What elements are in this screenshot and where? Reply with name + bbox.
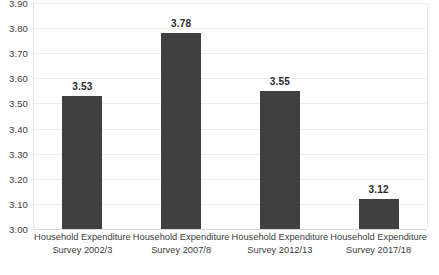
bar (359, 199, 399, 229)
y-axis-tick-label: 3.80 (9, 23, 28, 34)
y-axis-tick-label: 3.50 (9, 98, 28, 109)
x-axis-category-line: Household Expenditure (231, 231, 330, 244)
y-axis-tick-label: 3.60 (9, 73, 28, 84)
x-axis-category-line: Survey 2002/3 (33, 244, 132, 257)
bar-group: 3.55 (231, 3, 330, 229)
x-axis-category-line: Survey 2017/18 (329, 244, 428, 257)
y-axis-tick-label: 3.20 (9, 173, 28, 184)
x-axis-category-line: Survey 2012/13 (231, 244, 330, 257)
y-axis: 3.903.803.703.603.503.403.303.203.103.00 (0, 0, 33, 240)
bar-value-label: 3.78 (171, 18, 191, 29)
y-axis-tick-label: 3.00 (9, 224, 28, 235)
x-axis-category-line: Household Expenditure (329, 231, 428, 244)
bar (62, 96, 102, 229)
gridline (34, 229, 427, 230)
x-axis: Household ExpenditureSurvey 2002/3Househ… (33, 231, 428, 275)
x-axis-category-line: Survey 2007/8 (132, 244, 231, 257)
x-axis-category-line: Household Expenditure (132, 231, 231, 244)
bar-group: 3.12 (329, 3, 428, 229)
y-axis-tick-label: 3.40 (9, 123, 28, 134)
x-axis-category-label: Household ExpenditureSurvey 2002/3 (33, 231, 132, 256)
bar (260, 91, 300, 229)
y-axis-tick-label: 3.30 (9, 148, 28, 159)
bar-value-label: 3.53 (72, 81, 92, 92)
bar-value-label: 3.12 (368, 184, 388, 195)
bars-layer: 3.533.783.553.12 (33, 3, 428, 229)
y-axis-tick-label: 3.10 (9, 198, 28, 209)
bar-chart: 3.903.803.703.603.503.403.303.203.103.00… (0, 0, 439, 275)
x-axis-category-label: Household ExpenditureSurvey 2017/18 (329, 231, 428, 256)
bar (161, 33, 201, 229)
y-axis-tick-label: 3.70 (9, 48, 28, 59)
x-axis-category-line: Household Expenditure (33, 231, 132, 244)
bar-group: 3.78 (132, 3, 231, 229)
bar-group: 3.53 (33, 3, 132, 229)
x-axis-category-label: Household ExpenditureSurvey 2012/13 (231, 231, 330, 256)
x-axis-category-label: Household ExpenditureSurvey 2007/8 (132, 231, 231, 256)
y-axis-tick-label: 3.90 (9, 0, 28, 9)
bar-value-label: 3.55 (270, 76, 290, 87)
